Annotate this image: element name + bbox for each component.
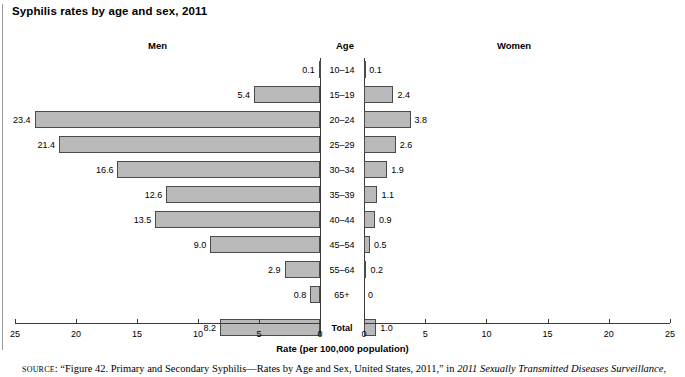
value-label-men: 5.4 bbox=[238, 87, 251, 103]
axis-tick bbox=[548, 319, 549, 323]
value-label-men: 12.6 bbox=[145, 187, 163, 203]
value-label-men: 9.0 bbox=[194, 237, 207, 253]
bar-women-4044 bbox=[364, 211, 375, 228]
age-group-label: 65+ bbox=[321, 287, 363, 303]
axis-tick-label-left: 10 bbox=[183, 329, 213, 339]
axis-tick bbox=[15, 319, 16, 323]
page-title: Syphilis rates by age and sex, 2011 bbox=[12, 5, 207, 17]
bar-men-4044 bbox=[155, 211, 320, 228]
axis-tick bbox=[76, 319, 77, 323]
value-label-men: 0.8 bbox=[294, 287, 307, 303]
source-italic: 2011 Sexually Transmitted Diseases Surve… bbox=[457, 363, 666, 374]
bar-men-2529 bbox=[59, 136, 320, 153]
column-header-women: Women bbox=[497, 40, 531, 51]
axis-tick-label-right: 10 bbox=[471, 329, 501, 339]
table-row: 2.955–640.2 bbox=[0, 258, 685, 283]
axis-title: Rate (per 100,000 population) bbox=[0, 343, 685, 354]
bar-men-3539 bbox=[166, 186, 320, 203]
table-row: 0.110–140.1 bbox=[0, 58, 685, 83]
bar-men-65+ bbox=[310, 286, 320, 303]
bar-women-2529 bbox=[364, 136, 396, 153]
value-label-women: 0.1 bbox=[369, 62, 382, 78]
bar-women-3034 bbox=[364, 161, 387, 178]
age-group-label: 15–19 bbox=[321, 87, 363, 103]
bar-men-1519 bbox=[254, 86, 320, 103]
bar-women-4554 bbox=[364, 236, 370, 253]
axis-tick bbox=[670, 319, 671, 323]
value-label-women: 2.4 bbox=[397, 87, 410, 103]
table-row: 5.415–192.4 bbox=[0, 83, 685, 108]
value-label-women: 0.5 bbox=[374, 237, 387, 253]
source-text: : “Figure 42. Primary and Secondary Syph… bbox=[55, 363, 457, 374]
axis-tick-label-right: 0 bbox=[349, 329, 379, 339]
value-label-women: 0 bbox=[368, 287, 373, 303]
bar-men-2024 bbox=[35, 111, 320, 128]
table-row: 13.540–440.9 bbox=[0, 208, 685, 233]
table-row: 8.2Total1.0 bbox=[0, 316, 685, 341]
axis-tick-label-right: 15 bbox=[533, 329, 563, 339]
source-label: SOURCE bbox=[22, 365, 55, 374]
age-group-label: 55–64 bbox=[321, 262, 363, 278]
age-group-label: 20–24 bbox=[321, 112, 363, 128]
bar-men-5564 bbox=[285, 261, 320, 278]
axis-tick-label-right: 5 bbox=[410, 329, 440, 339]
value-label-women: 1.1 bbox=[381, 187, 394, 203]
value-label-women: 0.2 bbox=[370, 262, 383, 278]
table-row: 16.630–341.9 bbox=[0, 158, 685, 183]
column-header-men: Men bbox=[148, 40, 167, 51]
axis-tick bbox=[609, 319, 610, 323]
chart-plot-area: 0.110–140.15.415–192.423.420–243.821.425… bbox=[0, 58, 685, 318]
axis-tick-label-left: 5 bbox=[244, 329, 274, 339]
value-label-men: 0.1 bbox=[302, 62, 315, 78]
column-header-age: Age bbox=[336, 40, 354, 51]
value-label-women: 0.9 bbox=[379, 212, 392, 228]
value-label-men: 2.9 bbox=[268, 262, 281, 278]
table-row: 23.420–243.8 bbox=[0, 108, 685, 133]
age-group-label: 30–34 bbox=[321, 162, 363, 178]
axis-tick bbox=[320, 319, 321, 323]
value-label-women: 3.8 bbox=[415, 112, 428, 128]
value-label-men: 21.4 bbox=[37, 137, 55, 153]
value-label-women: 1.9 bbox=[391, 162, 404, 178]
axis-tick-label-left: 15 bbox=[122, 329, 152, 339]
axis-tick-label-left: 0 bbox=[305, 329, 335, 339]
age-group-label: 40–44 bbox=[321, 212, 363, 228]
source-note: SOURCE: “Figure 42. Primary and Secondar… bbox=[22, 362, 677, 376]
bar-men-4554 bbox=[210, 236, 320, 253]
age-group-label: 35–39 bbox=[321, 187, 363, 203]
bar-men-3034 bbox=[117, 161, 320, 178]
bar-women-1014 bbox=[364, 61, 366, 78]
age-group-label: 10–14 bbox=[321, 62, 363, 78]
value-label-men: 16.6 bbox=[96, 162, 114, 178]
age-group-label: 25–29 bbox=[321, 137, 363, 153]
axis-tick bbox=[198, 319, 199, 323]
table-row: 9.045–540.5 bbox=[0, 233, 685, 258]
value-label-women: 2.6 bbox=[400, 137, 413, 153]
axis-tick-label-right: 20 bbox=[594, 329, 624, 339]
bar-women-5564 bbox=[364, 261, 366, 278]
axis-tick bbox=[259, 319, 260, 323]
left-axis-line bbox=[15, 323, 321, 324]
bar-women-1519 bbox=[364, 86, 393, 103]
axis-tick bbox=[364, 319, 365, 323]
table-row: 0.865+0 bbox=[0, 283, 685, 308]
bar-women-3539 bbox=[364, 186, 377, 203]
table-row: 21.425–292.6 bbox=[0, 133, 685, 158]
value-label-men: 13.5 bbox=[134, 212, 152, 228]
value-label-men: 23.4 bbox=[13, 112, 31, 128]
axis-tick-label-left: 20 bbox=[61, 329, 91, 339]
axis-tick bbox=[137, 319, 138, 323]
axis-tick bbox=[425, 319, 426, 323]
axis-tick-label-right: 25 bbox=[655, 329, 685, 339]
age-group-label: 45–54 bbox=[321, 237, 363, 253]
table-row: 12.635–391.1 bbox=[0, 183, 685, 208]
right-axis-line bbox=[364, 323, 670, 324]
figure-container: Syphilis rates by age and sex, 2011 Men … bbox=[0, 0, 685, 377]
axis-tick bbox=[486, 319, 487, 323]
bar-women-2024 bbox=[364, 111, 411, 128]
axis-tick-label-left: 25 bbox=[0, 329, 30, 339]
